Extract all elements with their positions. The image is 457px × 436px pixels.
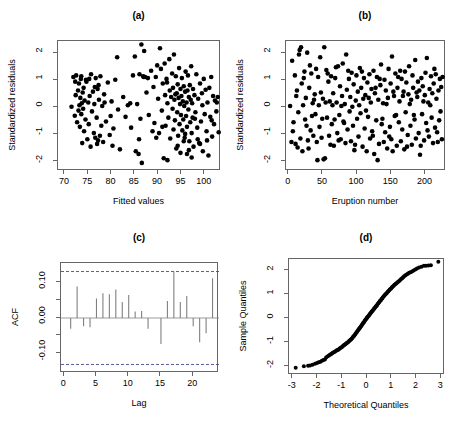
xtick-c (95, 372, 96, 376)
yticklabel-a: -2 (27, 154, 51, 164)
ytick-a (53, 133, 57, 134)
yticklabel-c: 0.10 (30, 275, 54, 285)
yticklabel-a: 1 (27, 72, 51, 82)
xtick-a (63, 170, 64, 174)
yticklabel-d: -1 (258, 335, 282, 345)
xlabel-c: Lag (20, 398, 258, 408)
xticklabel-a: 100 (184, 176, 224, 186)
xtick-b (287, 170, 288, 174)
xlabel-d: Theoretical Quantiles (248, 400, 457, 410)
yticklabel-a: -1 (27, 126, 51, 136)
xtick-a (133, 170, 134, 174)
panel-title-d: (d) (228, 232, 457, 243)
xtick-c (159, 372, 160, 376)
ytick-minor-c (56, 334, 60, 335)
ytick-a (53, 52, 57, 53)
xtick-c (192, 372, 193, 376)
xtick-a (203, 170, 204, 174)
ytick-b (281, 160, 285, 161)
yticklabel-d: 0 (258, 311, 282, 321)
yticklabel-b: 1 (255, 72, 279, 82)
ylabel-d: Sample Quantiles (238, 280, 248, 351)
xtick-d (316, 374, 317, 378)
xticklabel-d: 3 (420, 380, 457, 390)
ytick-a (53, 160, 57, 161)
xtick-a (180, 170, 181, 174)
xtick-b (356, 170, 357, 174)
xtick-a (110, 170, 111, 174)
xtick-c (63, 372, 64, 376)
yticklabel-d: 1 (258, 287, 282, 297)
ytick-d (284, 269, 288, 270)
xtick-d (440, 374, 441, 378)
plot-marks-a (58, 41, 221, 171)
yticklabel-b: 0 (255, 99, 279, 109)
yticklabel-d: 2 (258, 263, 282, 273)
ytick-b (281, 52, 285, 53)
ytick-minor-c (56, 299, 60, 300)
ytick-c (56, 317, 60, 318)
xtick-d (366, 374, 367, 378)
plot-area-a (57, 40, 220, 170)
yticklabel-c: 0.00 (30, 310, 54, 320)
xtick-d (415, 374, 416, 378)
panel-title-b: (b) (225, 10, 457, 21)
plot-marks-b (286, 41, 446, 171)
yticklabel-a: 0 (27, 99, 51, 109)
ylabel-b: Standardized residuals (235, 59, 245, 151)
ytick-b (281, 106, 285, 107)
yticklabel-c: -0.10 (30, 345, 54, 355)
xtick-b (321, 170, 322, 174)
xlabel-a: Fitted values (17, 196, 260, 206)
ytick-b (281, 133, 285, 134)
plot-marks-d (289, 259, 445, 375)
yticklabel-a: 2 (27, 45, 51, 55)
ytick-d (284, 365, 288, 366)
ytick-a (53, 106, 57, 107)
plot-area-d (288, 258, 444, 374)
ytick-d (284, 293, 288, 294)
diagnostics-figure: (a)707580859095100-2-1012Fitted valuesSt… (0, 0, 457, 436)
ylabel-a: Standardized residuals (7, 59, 17, 151)
xtick-d (341, 374, 342, 378)
xtick-a (157, 170, 158, 174)
plot-marks-c (61, 263, 219, 373)
ytick-a (53, 79, 57, 80)
xtick-d (291, 374, 292, 378)
plot-area-b (285, 40, 445, 170)
xtick-a (87, 170, 88, 174)
ytick-c (56, 281, 60, 282)
xtick-c (127, 372, 128, 376)
yticklabel-b: -1 (255, 126, 279, 136)
ytick-c (56, 352, 60, 353)
yticklabel-d: -2 (258, 359, 282, 369)
xlabel-b: Eruption number (245, 196, 457, 206)
ytick-d (284, 317, 288, 318)
yticklabel-b: 2 (255, 45, 279, 55)
xticklabel-c: 20 (172, 378, 212, 388)
ytick-d (284, 341, 288, 342)
xticklabel-b: 200 (404, 176, 444, 186)
yticklabel-b: -2 (255, 154, 279, 164)
xtick-d (390, 374, 391, 378)
xtick-b (424, 170, 425, 174)
xtick-b (390, 170, 391, 174)
plot-area-c (60, 262, 218, 372)
ylabel-c: ACF (10, 308, 20, 326)
ytick-b (281, 79, 285, 80)
